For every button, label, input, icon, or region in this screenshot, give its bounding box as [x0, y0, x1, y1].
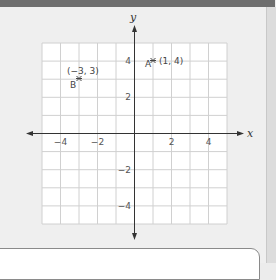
svg-text:−4: −4 — [54, 137, 68, 147]
point-a-name: A — [145, 59, 152, 69]
svg-text:−2: −2 — [118, 165, 131, 175]
svg-text:−2: −2 — [91, 137, 104, 147]
point-b-coords: (−3, 3) — [67, 66, 99, 76]
svg-text:−4: −4 — [118, 201, 132, 211]
svg-text:4: 4 — [206, 137, 212, 147]
point-b-name: B — [70, 80, 76, 90]
svg-text:4: 4 — [125, 56, 131, 66]
svg-text:2: 2 — [125, 92, 131, 102]
point-a-coords: (1, 4) — [159, 56, 183, 66]
y-axis-label: y — [129, 11, 137, 24]
y-axis-up-arrow-icon — [132, 25, 137, 32]
svg-text:2: 2 — [169, 137, 175, 147]
y-axis-down-arrow-icon — [132, 233, 137, 240]
x-axis-left-arrow-icon — [26, 131, 33, 136]
answer-box[interactable] — [0, 248, 260, 280]
x-axis-right-arrow-icon — [237, 131, 244, 136]
x-axis-label: x — [247, 127, 254, 140]
